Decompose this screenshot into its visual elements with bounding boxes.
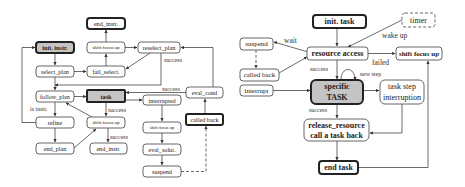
label-task-success: success [108, 107, 127, 113]
node-called-back-right: called back [240, 69, 279, 81]
node-suspend-right: suspend [240, 38, 273, 50]
svg-text:suspend: suspend [152, 168, 173, 175]
svg-text:reselect_plan: reselect_plan [143, 44, 176, 51]
node-task-step-interruption: task step interruption [380, 80, 424, 104]
diagram-canvas: success success is instr. success succes… [0, 0, 465, 187]
node-end-instr-bottom: end_instr. [90, 143, 127, 154]
label-success-top: success [310, 66, 329, 72]
svg-text:shift focus up: shift focus up [92, 120, 120, 125]
svg-text:follow_plan: follow_plan [40, 93, 70, 100]
label-wait: wait [284, 36, 298, 45]
svg-text:shift focus up: shift focus up [92, 45, 120, 50]
svg-text:called back: called back [244, 71, 276, 79]
svg-text:init. instr.: init. instr. [42, 44, 68, 51]
label-eval-cond-success: success [162, 86, 181, 92]
node-specific-task: specific TASK [311, 80, 363, 104]
svg-text:eval_solut.: eval_solut. [149, 146, 176, 153]
label-is-instr: is instr. [30, 106, 48, 112]
node-reselect-plan: reselect_plan [138, 42, 180, 53]
node-eval-solut: eval_solut. [143, 144, 181, 155]
node-end-plan: end_plan [36, 143, 74, 154]
svg-text:select_plan: select_plan [41, 68, 69, 75]
node-release-resource: release_resource call a task back [304, 119, 369, 141]
svg-text:interrupted: interrupted [148, 97, 176, 104]
svg-text:eval_cond: eval_cond [192, 89, 218, 96]
svg-text:end task: end task [324, 163, 353, 172]
svg-text:timer: timer [410, 16, 427, 25]
node-shift-focus-up-right-diagram: shift focus up [396, 47, 442, 60]
label-reselect-success: success [164, 57, 183, 63]
label-success-bottom: success [309, 107, 328, 113]
svg-text:end_plan: end_plan [44, 145, 67, 152]
svg-text:refine: refine [48, 119, 63, 126]
node-called-back: called back [186, 114, 223, 125]
svg-text:fail_select.: fail_select. [93, 68, 120, 75]
node-shift-focus-up-mid: shift focus up [87, 117, 125, 128]
svg-text:shift focus up: shift focus up [150, 125, 175, 130]
svg-text:interruption: interruption [383, 93, 421, 102]
svg-text:task: task [100, 93, 112, 100]
svg-text:resource access: resource access [312, 49, 364, 58]
node-select-plan: select_plan [36, 66, 74, 77]
node-task: task [87, 90, 125, 102]
node-suspend-left: suspend [143, 166, 181, 177]
svg-text:suspend: suspend [245, 40, 268, 48]
node-resource-access: resource access [307, 47, 368, 60]
node-interrupted: interrupted [143, 95, 181, 105]
node-end-instr-top: end_instr. [87, 18, 125, 29]
node-init-task: init. task [313, 15, 366, 28]
node-end-task: end task [319, 161, 358, 174]
svg-text:init. task: init. task [325, 17, 355, 26]
svg-text:interrupt: interrupt [244, 87, 268, 95]
node-shift-focus-up-right: shift focus up [143, 122, 181, 133]
label-failed: failed [372, 58, 389, 67]
svg-text:release_resource: release_resource [308, 121, 365, 130]
node-timer: timer [402, 13, 435, 27]
svg-text:shift focus up: shift focus up [399, 50, 439, 58]
label-shift-success: success [110, 134, 129, 140]
node-init-instr: init. instr. [36, 42, 74, 53]
node-interrupt: interrupt [240, 85, 273, 96]
svg-text:called back: called back [191, 116, 220, 123]
label-new-step: new step [360, 71, 381, 77]
label-wake-up: wake up [382, 31, 407, 40]
node-eval-cond: eval_cond [186, 87, 223, 98]
node-shift-focus-up-top: shift focus up [87, 42, 125, 53]
svg-text:call a task back: call a task back [310, 131, 363, 140]
svg-text:task step: task step [388, 82, 416, 91]
node-fail-select: fail_select. [87, 66, 125, 77]
svg-text:end_instr.: end_instr. [96, 145, 121, 152]
node-follow-plan: follow_plan [36, 91, 74, 102]
node-refine: refine [36, 117, 74, 128]
svg-text:TASK: TASK [326, 93, 348, 102]
svg-text:end_instr.: end_instr. [94, 20, 119, 27]
svg-text:specific: specific [324, 82, 350, 91]
